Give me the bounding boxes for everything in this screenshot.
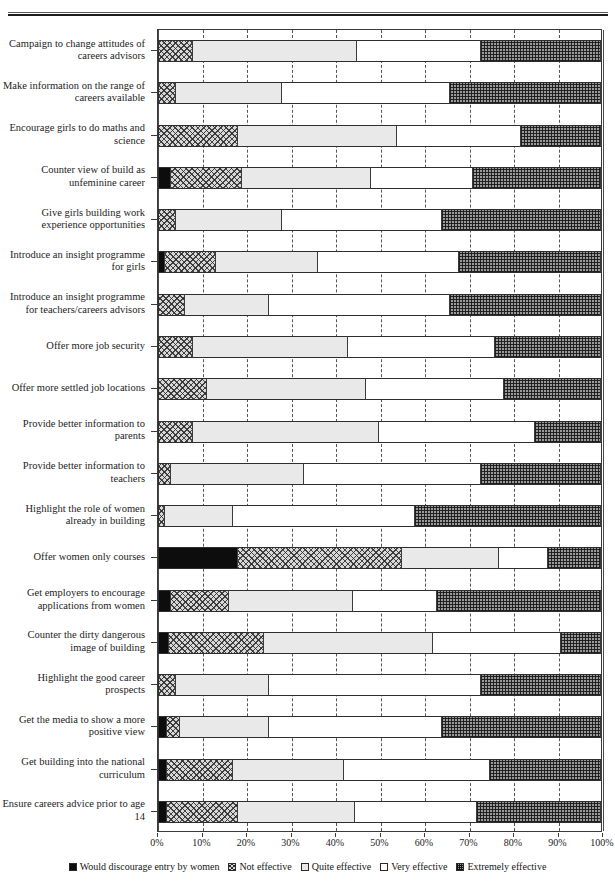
- bar-segment-discourage: [158, 716, 167, 738]
- y-axis-label: Get employers to encourage applications …: [0, 578, 145, 620]
- x-axis-tick-label: 100%: [590, 837, 613, 848]
- bar-segment-extremely_effective: [504, 378, 601, 400]
- bar-segment-quite_effective: [402, 547, 499, 569]
- bar-segment-extremely_effective: [442, 209, 601, 231]
- legend-item-discourage[interactable]: Would discourage entry by women: [69, 861, 220, 872]
- bar-segment-not_effective: [167, 759, 233, 781]
- y-axis-label: Highlight the good career prospects: [0, 663, 145, 705]
- bar-row: [158, 547, 601, 569]
- bar-segment-extremely_effective: [477, 801, 601, 823]
- bar-segment-extremely_effective: [561, 632, 601, 654]
- bar-row: [158, 167, 601, 189]
- bar-segment-quite_effective: [238, 125, 397, 147]
- bar-segment-not_effective: [158, 125, 238, 147]
- y-axis-label: Offer women only courses: [0, 536, 145, 578]
- y-axis-label: Ensure careers advice prior to age 14: [0, 790, 145, 832]
- bar-segment-quite_effective: [171, 463, 304, 485]
- legend-label: Not effective: [239, 861, 291, 872]
- legend-item-very_effective[interactable]: Very effective: [380, 861, 447, 872]
- bar-row: [158, 590, 601, 612]
- y-axis-label: Campaign to change attitudes of careers …: [0, 29, 145, 71]
- bar-segment-not_effective: [165, 251, 216, 273]
- bar-row: [158, 294, 601, 316]
- bar-row: [158, 82, 601, 104]
- bar-segment-not_effective: [158, 421, 193, 443]
- bar-segment-extremely_effective: [490, 759, 601, 781]
- bar-segment-extremely_effective: [450, 294, 601, 316]
- bar-segment-quite_effective: [176, 82, 282, 104]
- y-axis-label: Get building into the national curriculu…: [0, 747, 145, 789]
- bar-segment-quite_effective: [233, 759, 344, 781]
- chart-legend: Would discourage entry by womenNot effec…: [0, 861, 615, 872]
- bar-segment-very_effective: [355, 801, 477, 823]
- bar-row: [158, 801, 601, 823]
- bar-segment-very_effective: [269, 294, 451, 316]
- bar-segment-very_effective: [499, 547, 548, 569]
- bar-row: [158, 125, 601, 147]
- bar-row: [158, 716, 601, 738]
- bar-rows: [158, 30, 601, 831]
- legend-item-extremely_effective[interactable]: Extremely effective: [456, 861, 546, 872]
- x-axis-tick-label: 90%: [548, 837, 566, 848]
- bar-segment-not_effective: [158, 463, 171, 485]
- legend-item-quite_effective[interactable]: Quite effective: [301, 861, 372, 872]
- bar-segment-discourage: [158, 632, 169, 654]
- bar-row: [158, 463, 601, 485]
- bar-segment-not_effective: [158, 294, 185, 316]
- bar-segment-very_effective: [397, 125, 521, 147]
- y-axis-label: Make information on the range of careers…: [0, 71, 145, 113]
- bar-segment-quite_effective: [229, 590, 353, 612]
- bar-segment-quite_effective: [216, 251, 318, 273]
- bar-segment-extremely_effective: [481, 463, 601, 485]
- x-axis-tick-label: 80%: [504, 837, 522, 848]
- bar-segment-extremely_effective: [415, 505, 601, 527]
- bar-row: [158, 251, 601, 273]
- bar-segment-not_effective: [158, 378, 207, 400]
- x-axis-tick-label: 70%: [459, 837, 477, 848]
- bar-segment-not_effective: [158, 40, 193, 62]
- bar-segment-very_effective: [233, 505, 415, 527]
- y-axis-label: Offer more job security: [0, 325, 145, 367]
- bar-segment-very_effective: [366, 378, 503, 400]
- bar-row: [158, 209, 601, 231]
- y-axis-label: Introduce an insight programme for girls: [0, 240, 145, 282]
- bar-segment-quite_effective: [165, 505, 234, 527]
- bar-segment-very_effective: [379, 421, 534, 443]
- y-axis-label: Offer more settled job locations: [0, 367, 145, 409]
- bar-row: [158, 674, 601, 696]
- bar-segment-extremely_effective: [495, 336, 601, 358]
- page-header-rule: [8, 14, 608, 16]
- y-axis-label: Introduce an insight programme for teach…: [0, 283, 145, 325]
- bar-segment-not_effective: [167, 716, 180, 738]
- x-axis-tick-label: 50%: [370, 837, 388, 848]
- bar-segment-discourage: [158, 590, 171, 612]
- bar-segment-extremely_effective: [473, 167, 601, 189]
- bar-segment-quite_effective: [176, 674, 269, 696]
- bar-row: [158, 378, 601, 400]
- bar-segment-extremely_effective: [437, 590, 601, 612]
- legend-item-not_effective[interactable]: Not effective: [228, 861, 291, 872]
- bar-segment-extremely_effective: [481, 40, 601, 62]
- legend-swatch-extremely_effective: [456, 863, 464, 871]
- bar-segment-not_effective: [171, 590, 229, 612]
- bar-segment-not_effective: [169, 632, 264, 654]
- legend-swatch-very_effective: [380, 863, 388, 871]
- bar-segment-very_effective: [357, 40, 481, 62]
- bar-segment-discourage: [158, 167, 171, 189]
- legend-swatch-discourage: [69, 863, 77, 871]
- x-axis: 0%10%20%30%40%50%60%70%80%90%100%: [157, 833, 602, 851]
- legend-swatch-not_effective: [228, 863, 236, 871]
- bar-segment-not_effective: [167, 801, 238, 823]
- bar-segment-very_effective: [269, 716, 442, 738]
- bar-segment-very_effective: [433, 632, 561, 654]
- bar-segment-very_effective: [348, 336, 494, 358]
- bar-row: [158, 421, 601, 443]
- bar-segment-very_effective: [269, 674, 482, 696]
- y-axis-label: Counter the dirty dangerous image of bui…: [0, 621, 145, 663]
- y-axis-label: Give girls building work experience oppo…: [0, 198, 145, 240]
- bar-segment-not_effective: [158, 209, 176, 231]
- bar-row: [158, 759, 601, 781]
- bar-row: [158, 40, 601, 62]
- bar-segment-discourage: [158, 251, 165, 273]
- y-axis-label: Encourage girls to do maths and science: [0, 114, 145, 156]
